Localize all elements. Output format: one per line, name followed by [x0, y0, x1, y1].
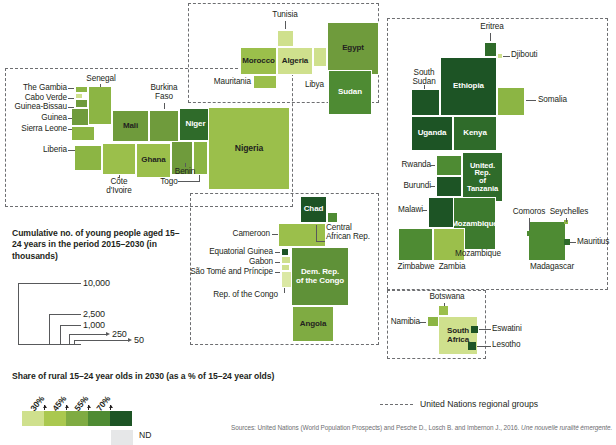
tile-lesotho[interactable] — [468, 342, 476, 350]
label-senegal: Senegal — [80, 75, 122, 84]
tile-equatorial-guinea[interactable]: Equatorial Guinea — [281, 248, 289, 256]
size-box-10000-top — [18, 283, 81, 284]
color-swatch-0 — [22, 411, 44, 426]
tile-label: Ghana — [140, 156, 166, 164]
size-tick-1000: 1,000 — [83, 320, 105, 330]
leader-burundi — [430, 186, 435, 187]
size-legend-title: Cumulative no. of young people aged 15–2… — [12, 228, 184, 262]
size-box-1000-top — [60, 325, 81, 326]
label-zambia: Zambia — [434, 263, 470, 272]
tile-ghana[interactable]: Ghana — [136, 143, 171, 178]
tile-libya[interactable]: Libya — [313, 47, 327, 67]
leader-somalia — [526, 100, 536, 101]
tile-tanzania[interactable]: United. Rep. of Tanzania — [462, 152, 503, 202]
label-gabon: Gabon — [205, 258, 273, 267]
nd-swatch — [111, 430, 133, 445]
label-madagascar: Madagascar — [524, 263, 580, 272]
label-rep-congo: Rep. of the Congo — [200, 291, 278, 300]
label-libya: Libya — [292, 81, 324, 90]
tile-label: Kenya — [462, 129, 488, 137]
label-central-african-rep: Central African Rep. — [326, 223, 386, 242]
tile-morocco[interactable]: Morocco — [240, 47, 277, 75]
leader-namibia — [419, 322, 426, 323]
leader-cote-divoire — [119, 175, 120, 178]
label-tunisia: Tunisia — [263, 11, 307, 20]
color-swatch-3 — [88, 411, 110, 426]
tile-botswana[interactable]: Botswana — [438, 305, 449, 316]
tile-kenya[interactable]: Kenya — [453, 116, 497, 151]
leader-rep-congo — [284, 288, 285, 293]
tile-central-african-rep[interactable]: Central African Rep. — [327, 212, 338, 223]
leader-car-h — [316, 241, 325, 242]
leader-tunisia — [285, 21, 286, 29]
tile-eritrea[interactable]: Eritrea — [484, 42, 497, 57]
tile-label: Mozambique — [453, 220, 496, 228]
tile-cameroon[interactable]: Cameroon — [278, 223, 326, 247]
label-seychelles: Seychelles — [543, 208, 595, 217]
leader-rwanda — [430, 165, 435, 166]
label-burkina-faso: Burkina Faso — [140, 84, 188, 101]
tile-burundi[interactable]: Burundi — [436, 176, 462, 197]
tile-chad[interactable]: Chad — [300, 196, 327, 223]
tile-eswatini[interactable] — [471, 326, 478, 333]
group-legend-dash — [380, 404, 413, 405]
leader-car-v — [316, 225, 317, 241]
tile-egypt[interactable]: Egypt — [327, 22, 379, 75]
size-arrow-50 — [80, 340, 129, 341]
tile-zimbabwe[interactable]: Zimbabwe — [398, 228, 433, 261]
nd-label: ND — [139, 430, 151, 440]
tile-south-sudan[interactable]: South Sudan — [411, 89, 440, 116]
tile-rwanda[interactable]: Rwanda — [436, 155, 462, 176]
label-mauritania: Mauritania — [195, 78, 251, 87]
label-cameroon: Cameroon — [214, 230, 270, 239]
tile-label: Angola — [299, 320, 328, 328]
source-note: Sources: United Nations (World Populatio… — [231, 424, 612, 431]
tile-label: Morocco — [241, 57, 276, 65]
tile-cote-divoire[interactable]: Côte d'Ivoire — [102, 143, 136, 175]
tile-sudan[interactable]: Sudan — [328, 70, 372, 115]
tile-uganda[interactable]: Uganda — [411, 116, 453, 151]
tile-mali[interactable]: Mali — [112, 110, 149, 142]
size-box-250-left — [69, 334, 70, 345]
tile-tunisia[interactable]: Tunisia — [277, 30, 294, 47]
leader-sierra-leone — [68, 129, 72, 130]
tile-comoros[interactable] — [527, 231, 532, 236]
tile-mauritania[interactable]: Mauritania — [253, 75, 277, 89]
tile-madagascar[interactable]: Madagascar — [528, 221, 566, 261]
tile-the-gambia[interactable]: The Gambia — [75, 86, 88, 93]
label-burundi: Burundi — [387, 182, 431, 191]
tile-drc[interactable]: Dem. Rep. of the Congo — [291, 247, 349, 306]
tile-sierra-leone[interactable]: Sierra Leone — [71, 126, 95, 141]
tile-angola[interactable]: Angola — [292, 306, 334, 342]
label-djibouti: Djibouti — [511, 51, 555, 60]
label-zimbabwe: Zimbabwe — [392, 263, 440, 272]
label-the-gambia: The Gambia — [20, 84, 67, 93]
leader-senegal — [100, 84, 101, 87]
tile-liberia[interactable]: Liberia — [74, 145, 102, 171]
label-eswatini: Eswatini — [492, 325, 536, 334]
leader-lesotho — [477, 346, 491, 347]
tile-gabon[interactable]: Gabon — [281, 256, 291, 264]
leader-djibouti — [503, 56, 510, 57]
label-guinea: Guinea — [20, 114, 67, 123]
ramp-tick-55 — [88, 405, 89, 410]
size-arrow-head-250 — [106, 332, 110, 336]
label-mozambique: Mozambique — [455, 250, 511, 259]
size-tick-2500: 2,500 — [83, 309, 105, 319]
tile-nigeria[interactable]: Nigeria — [208, 107, 290, 190]
label-eritrea: Eritrea — [470, 23, 514, 32]
leader-south-sudan — [424, 85, 425, 89]
label-cote-divoire: Côte d'Ivoire — [95, 178, 143, 195]
leader-togo-h — [178, 181, 200, 182]
tile-somalia[interactable]: Somalia — [497, 87, 525, 116]
tile-guinea-bissau[interactable]: Guinea-Bissau — [75, 99, 88, 108]
size-box-10000-left — [18, 283, 19, 345]
tile-ethiopia[interactable]: Ethiopia — [440, 57, 497, 116]
leader-gabon — [275, 262, 280, 263]
tile-senegal[interactable]: Senegal — [88, 86, 112, 125]
tile-algeria[interactable]: Algeria — [277, 47, 313, 75]
tile-sao-tome[interactable]: São Tomé and Príncipe — [281, 264, 290, 271]
label-sao-tome: São Tomé and Príncipe — [178, 268, 273, 277]
tile-burkina-faso[interactable]: Burkina Faso — [149, 110, 179, 142]
